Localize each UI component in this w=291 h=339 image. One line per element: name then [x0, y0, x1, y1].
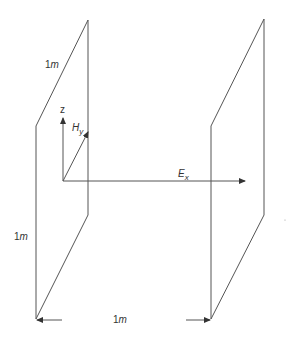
- right-plate: [211, 19, 264, 319]
- e-field-label: Ex: [178, 168, 190, 182]
- stray-mark: [284, 219, 285, 220]
- plate-edge-label: 1m: [45, 59, 59, 70]
- separation-label: 1m: [113, 314, 127, 325]
- h-field-arrow: [63, 132, 88, 181]
- left-plate: [36, 20, 88, 319]
- plate-height-label: 1m: [14, 231, 28, 242]
- z-axis-label: z: [60, 104, 65, 115]
- h-field-label: Hy: [72, 122, 84, 136]
- parallel-plates-diagram: 1m z Hy Ex 1m 1m: [0, 0, 291, 339]
